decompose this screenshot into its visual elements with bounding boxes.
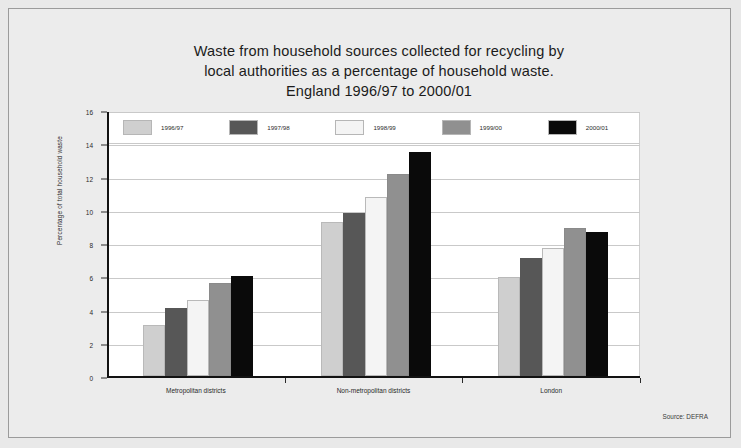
gridline (109, 145, 640, 146)
legend-label: 1997/98 (267, 124, 289, 131)
y-axis-label: Percentage of total household waste (56, 136, 63, 245)
legend-label: 1996/97 (161, 124, 183, 131)
legend-item-1999-00[interactable]: 1999/00 (428, 120, 534, 135)
y-tick-label: 12 (67, 175, 93, 182)
chart-legend: 1996/971997/981998/991999/002000/01 (109, 112, 640, 144)
plot-area: 1996/971997/981998/991999/002000/01 (107, 112, 640, 378)
source-note: Source: DEFRA (663, 413, 708, 420)
bar (165, 308, 187, 376)
chart-title-line-3: England 1996/97 to 2000/01 (69, 81, 689, 101)
bar (498, 277, 520, 376)
plot-right-rule (639, 112, 640, 376)
legend-item-1997-98[interactable]: 1997/98 (215, 120, 321, 135)
y-tick-label: 2 (67, 341, 93, 348)
bar (520, 258, 542, 376)
chart-title-line-2: local authorities as a percentage of hou… (69, 61, 689, 81)
bar (343, 213, 365, 376)
y-tick-label: 0 (67, 375, 93, 382)
legend-item-1998-99[interactable]: 1998/99 (321, 120, 427, 135)
bar (143, 325, 165, 376)
x-tick-mark (640, 378, 641, 383)
legend-item-2000-01[interactable]: 2000/01 (534, 120, 640, 135)
bar (542, 248, 564, 376)
bar (409, 152, 431, 376)
y-tick-label: 10 (67, 208, 93, 215)
bar (586, 232, 608, 376)
x-category-label: London (540, 387, 562, 394)
scanned-page: Waste from household sources collected f… (0, 0, 741, 448)
bar (321, 222, 343, 376)
legend-swatch-icon (229, 120, 258, 135)
legend-swatch-icon (442, 120, 471, 135)
chart-title: Waste from household sources collected f… (69, 41, 689, 101)
bar (564, 228, 586, 376)
x-category-label: Metropolitan districts (166, 387, 226, 394)
legend-label: 1998/99 (373, 124, 395, 131)
bar (387, 174, 409, 376)
legend-swatch-icon (123, 120, 152, 135)
chart-title-line-1: Waste from household sources collected f… (69, 41, 689, 61)
legend-label: 1999/00 (480, 124, 502, 131)
bar (231, 276, 253, 376)
y-tick-label: 16 (67, 109, 93, 116)
bar (209, 283, 231, 376)
y-tick-label: 4 (67, 308, 93, 315)
y-tick-label: 14 (67, 142, 93, 149)
y-tick-label: 8 (67, 242, 93, 249)
legend-swatch-icon (548, 120, 577, 135)
legend-item-1996-97[interactable]: 1996/97 (109, 120, 215, 135)
x-tick-mark (285, 378, 286, 383)
figure-frame: Waste from household sources collected f… (8, 8, 731, 438)
legend-label: 2000/01 (586, 124, 608, 131)
x-category-label: Non-metropolitan districts (337, 387, 411, 394)
bar (365, 197, 387, 376)
gridline (109, 179, 640, 180)
y-tick-label: 6 (67, 275, 93, 282)
bar (187, 300, 209, 376)
x-tick-mark (462, 378, 463, 383)
legend-swatch-icon (335, 120, 364, 135)
